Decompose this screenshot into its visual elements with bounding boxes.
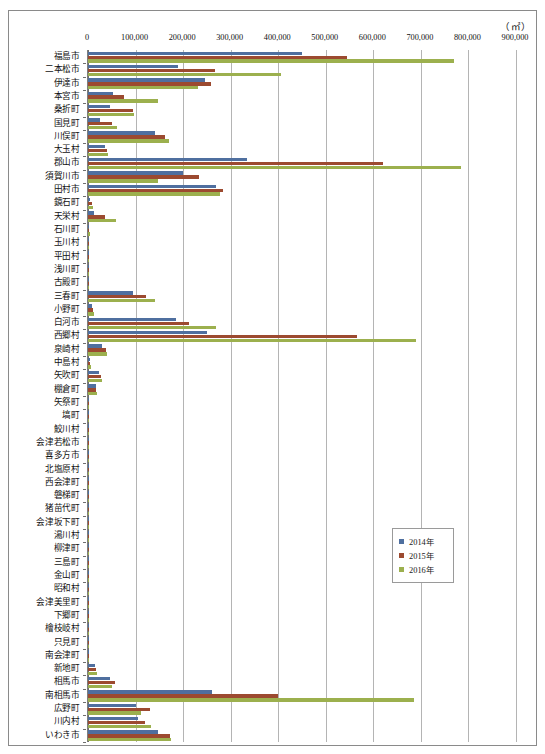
bar-2015年: [88, 308, 93, 311]
bar-2015年: [88, 175, 199, 178]
bar-2015年: [88, 641, 89, 644]
bar-row: [88, 210, 515, 223]
category-label: 金山町: [54, 569, 80, 582]
bar-row: [88, 436, 515, 449]
bar-2016年: [88, 658, 89, 661]
category-tick: [83, 369, 86, 370]
bar-2015年: [88, 388, 96, 391]
bar-2014年: [88, 118, 100, 121]
bar-2016年: [88, 405, 89, 408]
bar-2014年: [88, 358, 90, 361]
chart-legend: 2014年2015年2016年: [392, 528, 454, 583]
category-tick: [83, 715, 86, 716]
legend-item[interactable]: 2014年: [399, 534, 447, 548]
bar-2015年: [88, 628, 89, 631]
category-tick: [83, 582, 86, 583]
bar-row: [88, 409, 515, 422]
category-label: 石川町: [54, 223, 80, 236]
x-tick-label: 200,000: [169, 33, 196, 42]
x-tick-label: 600,000: [359, 33, 386, 42]
category-tick: [83, 156, 86, 157]
bar-2014年: [88, 211, 94, 214]
category-label: 玉川村: [54, 236, 80, 249]
bar-2014年: [88, 145, 105, 148]
bar-2015年: [88, 335, 357, 338]
bar-2016年: [88, 725, 151, 728]
legend-label: 2014年: [409, 535, 434, 547]
bar-2015年: [88, 468, 89, 471]
category-tick: [83, 77, 86, 78]
bar-2016年: [88, 738, 171, 741]
bar-row: [88, 236, 515, 249]
x-tick-label: 500,000: [311, 33, 338, 42]
category-tick: [83, 476, 86, 477]
bar-2016年: [88, 472, 89, 475]
bar-2014年: [88, 384, 96, 387]
bar-2016年: [88, 432, 89, 435]
category-tick: [83, 290, 86, 291]
bar-2014年: [88, 597, 89, 600]
x-tick-label: 900,000: [502, 33, 529, 42]
bar-2016年: [88, 219, 116, 222]
category-label: 三島町: [54, 556, 80, 569]
category-label: 棚倉町: [54, 383, 80, 396]
category-tick: [83, 303, 86, 304]
bar-2015年: [88, 721, 145, 724]
bar-2015年: [88, 694, 278, 697]
bar-2015年: [88, 561, 89, 564]
category-tick: [83, 502, 86, 503]
category-label: 広野町: [54, 702, 80, 715]
category-label: 二本松市: [45, 63, 80, 76]
bar-2016年: [88, 86, 198, 89]
category-tick: [83, 702, 86, 703]
legend-item[interactable]: 2016年: [399, 562, 447, 576]
x-tick-label: 100,000: [121, 33, 148, 42]
bar-row: [88, 143, 515, 156]
bar-row: [88, 596, 515, 609]
bar-row: [88, 263, 515, 276]
category-label: 福島市: [54, 50, 80, 63]
category-label: 新地町: [54, 662, 80, 675]
category-label: 平田村: [54, 250, 80, 263]
bar-2014年: [88, 504, 89, 507]
bar-2015年: [88, 348, 106, 351]
bar-2014年: [88, 544, 89, 547]
bar-2016年: [88, 711, 141, 714]
bar-2015年: [88, 282, 89, 285]
category-tick: [83, 689, 86, 690]
bar-2014年: [88, 158, 247, 161]
bar-row: [88, 103, 515, 116]
category-label: 郡山市: [54, 156, 80, 169]
bar-2016年: [88, 326, 216, 329]
bar-row: [88, 689, 515, 702]
legend-item[interactable]: 2015年: [399, 548, 447, 562]
bar-row: [88, 130, 515, 143]
bar-row: [88, 622, 515, 635]
bar-row: [88, 383, 515, 396]
bar-row: [88, 715, 515, 728]
category-tick: [83, 662, 86, 663]
x-tick-label: 800,000: [454, 33, 481, 42]
category-tick: [83, 742, 86, 743]
bar-2015年: [88, 295, 146, 298]
bar-2015年: [88, 95, 124, 98]
bar-2016年: [88, 113, 134, 116]
bar-row: [88, 250, 515, 263]
category-label: 鏡石町: [54, 196, 80, 209]
bar-2016年: [88, 499, 89, 502]
category-tick: [83, 276, 86, 277]
bar-row: [88, 609, 515, 622]
bar-2016年: [88, 605, 89, 608]
bar-2016年: [88, 552, 89, 555]
category-label: 只見町: [54, 636, 80, 649]
category-label: いわき市: [45, 729, 80, 742]
category-label: 桑折町: [54, 103, 80, 116]
category-label: 矢祭町: [54, 396, 80, 409]
bar-2015年: [88, 535, 89, 538]
bar-2014年: [88, 637, 89, 640]
category-label: 古殿町: [54, 276, 80, 289]
bar-2014年: [88, 624, 89, 627]
bar-row: [88, 729, 515, 742]
category-label: 矢吹町: [54, 369, 80, 382]
bar-2014年: [88, 238, 89, 241]
